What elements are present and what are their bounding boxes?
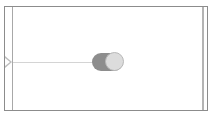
left-boundary-line [12, 7, 13, 110]
input-port-triangle-icon[interactable] [5, 56, 12, 68]
toggle-switch[interactable] [92, 53, 123, 71]
toggle-knob[interactable] [105, 52, 124, 71]
connector-line [13, 62, 93, 63]
right-boundary-line [202, 7, 204, 110]
